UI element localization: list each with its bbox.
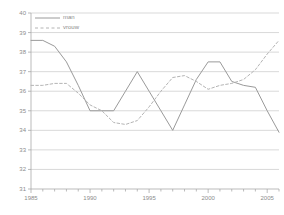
- legend-label-vrouw: vrouw: [63, 23, 79, 32]
- legend-label-man: man: [63, 13, 75, 22]
- gridlines: [31, 13, 279, 169]
- legend-entry-vrouw: vrouw: [33, 23, 96, 33]
- y-tick-label: 37: [8, 69, 26, 75]
- x-tick-label: 1985: [14, 195, 48, 201]
- y-tick-label: 40: [8, 10, 26, 16]
- y-tick-label: 34: [8, 127, 26, 133]
- y-tick-label: 31: [8, 186, 26, 192]
- y-tick-label: 33: [8, 147, 26, 153]
- line-chart: 31323334353637383940 1985199019952000200…: [0, 0, 284, 215]
- chart-legend: man vrouw: [33, 13, 96, 33]
- legend-entry-man: man: [33, 13, 96, 23]
- y-tick-label: 36: [8, 88, 26, 94]
- legend-swatch-vrouw: [35, 27, 60, 29]
- x-tick-label: 1990: [73, 195, 107, 201]
- y-tick-label: 32: [8, 166, 26, 172]
- legend-swatch-man: [35, 17, 60, 19]
- x-tick-label: 2005: [250, 195, 284, 201]
- y-tick-label: 38: [8, 49, 26, 55]
- y-tick-label: 39: [8, 30, 26, 36]
- series-line-man: [31, 40, 279, 132]
- series-line-vrouw: [31, 40, 279, 124]
- y-tick-label: 35: [8, 108, 26, 114]
- y-axis-ticks: [28, 13, 31, 189]
- data-series: [31, 40, 279, 132]
- x-tick-label: 1995: [132, 195, 166, 201]
- x-tick-label: 2000: [191, 195, 225, 201]
- x-axis-ticks: [31, 189, 279, 193]
